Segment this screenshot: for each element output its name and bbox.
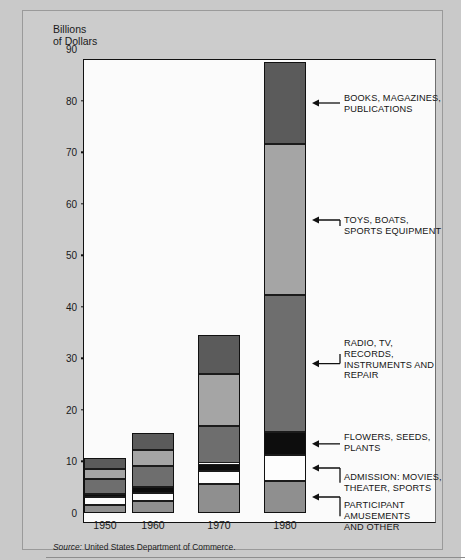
y-tick-label: 90 [47,44,77,55]
bar-segment [84,494,126,497]
stacked-bar [198,49,240,513]
bar-segment [84,469,126,479]
bar-segment [84,497,126,505]
stacked-bar [264,49,306,513]
bar-segment [84,479,126,494]
callout-arrow [312,438,341,449]
callout-label: BOOKS, MAGAZINES, PUBLICATIONS [344,93,441,115]
source-label: Source: [53,542,82,552]
callout-arrow [312,463,341,488]
y-tick-label: 30 [47,353,77,364]
x-tick-label: 1950 [93,519,116,531]
source-text: United States Department of Commerce. [82,542,236,552]
bar-segment [84,505,126,513]
stacked-bar [132,49,174,513]
bar-segment [198,374,240,426]
y-tick-label: 60 [47,198,77,209]
bar-segment [132,433,174,450]
callout-label: TOYS, BOATS, SPORTS EQUIPMENT [344,215,441,237]
bar-segment [198,471,240,484]
y-tick-label: 40 [47,301,77,312]
bar-segment [198,335,240,374]
callout-arrow [312,492,341,521]
callout-label: ADMISSION: MOVIES, THEATER, SPORTS [344,472,442,494]
bar-segment [264,62,306,144]
callout-arrow [312,98,341,109]
bar-segment [132,450,174,466]
bar-segment [84,458,126,469]
bar-segment [264,295,306,432]
bar-segment [264,481,306,513]
bar-segment [132,493,174,501]
bar-segment [264,432,306,455]
source-note: Source: United States Department of Comm… [53,542,235,552]
callout-label: FLOWERS, SEEDS, PLANTS [344,432,431,454]
bar-segment [132,487,174,493]
callout-arrow [312,215,341,231]
footer-rule [46,557,465,558]
y-tick-label: 50 [47,250,77,261]
x-tick-label: 1980 [273,519,296,531]
callout-label: RADIO, TV, RECORDS, INSTRUMENTS AND REPA… [344,338,442,381]
bar-segment [198,426,240,464]
y-tick-label: 20 [47,404,77,415]
callout-arrow [312,349,341,369]
y-tick-label: 80 [47,95,77,106]
bar-segment [264,455,306,481]
y-tick-label: 70 [47,147,77,158]
bar-segment [198,484,240,513]
x-tick-label: 1960 [141,519,164,531]
callout-label: PARTICIPANT AMUSEMENTS AND OTHER [344,500,410,532]
stacked-bar [84,49,126,513]
x-tick-label: 1970 [207,519,230,531]
bar-segment [132,466,174,487]
chart-plate: Billions of Dollars 0102030405060708090 … [22,10,443,550]
y-tick-label: 10 [47,456,77,467]
bar-segment [264,144,306,295]
bar-segment [132,501,174,513]
y-tick-label: 0 [47,508,77,519]
bar-segment [198,464,240,471]
